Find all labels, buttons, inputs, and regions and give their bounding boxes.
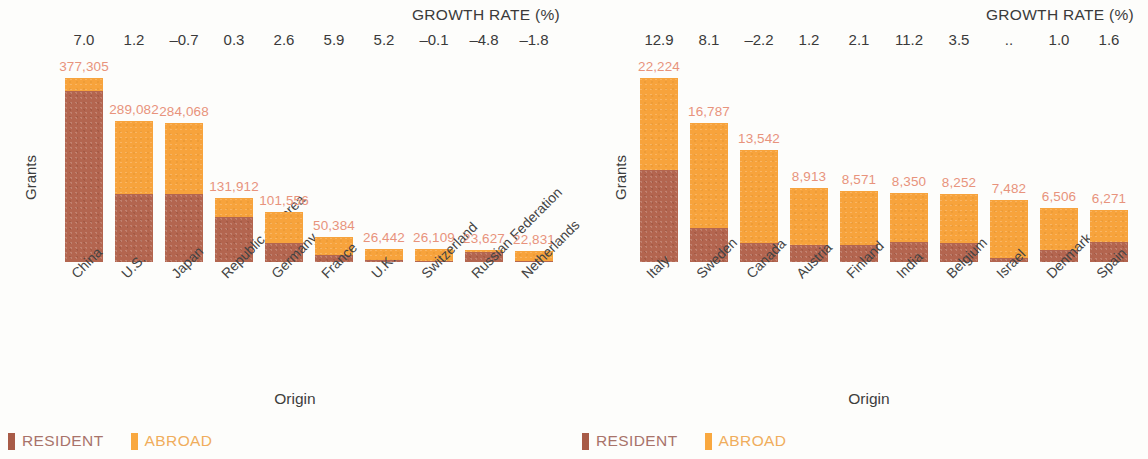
- bar-segment-resident: [640, 170, 678, 262]
- bar-value-label: 377,305: [54, 59, 114, 74]
- x-axis-title-right: Origin: [769, 390, 969, 408]
- chart-panel-top-origins: GROWTH RATE (%) 7.01.2–0.70.32.65.95.2–0…: [0, 0, 574, 459]
- bar-segment-abroad: [215, 198, 253, 217]
- bar-value-label: 6,271: [1079, 191, 1139, 206]
- legend-right: RESIDENT ABROAD: [582, 432, 786, 450]
- bar-segment-abroad: [265, 212, 303, 243]
- bar-segment-abroad: [740, 150, 778, 243]
- bar-value-label: 101,556: [254, 193, 314, 208]
- legend-label-abroad: ABROAD: [719, 432, 787, 450]
- bar-segment-abroad: [640, 78, 678, 170]
- bar-value-label: 13,542: [729, 131, 789, 146]
- bar-segment-abroad: [1090, 210, 1128, 242]
- legend-item-resident[interactable]: RESIDENT: [8, 432, 104, 450]
- legend-left: RESIDENT ABROAD: [8, 432, 212, 450]
- bar-value-label: 131,912: [204, 179, 264, 194]
- legend-swatch-abroad-icon: [705, 433, 712, 450]
- bar-japan[interactable]: [165, 123, 203, 262]
- bar-segment-abroad: [890, 193, 928, 242]
- bar-segment-abroad: [940, 194, 978, 243]
- legend-label-abroad: ABROAD: [145, 432, 213, 450]
- legend-item-abroad[interactable]: ABROAD: [131, 432, 213, 450]
- legend-swatch-resident-icon: [582, 433, 589, 450]
- bar-india[interactable]: [890, 193, 928, 262]
- bar-segment-abroad: [115, 121, 153, 194]
- bar-segment-abroad: [790, 188, 828, 245]
- bar-value-label: 284,068: [154, 104, 214, 119]
- bar-segment-abroad: [65, 78, 103, 91]
- legend-label-resident: RESIDENT: [22, 432, 104, 450]
- chart-panel-next-origins: GROWTH RATE (%) 12.98.1–2.21.22.111.23.5…: [574, 0, 1148, 459]
- bar-value-label: 22,224: [629, 59, 689, 74]
- bar-value-label: 16,787: [679, 104, 739, 119]
- legend-swatch-resident-icon: [8, 433, 15, 450]
- legend-item-resident[interactable]: RESIDENT: [582, 432, 678, 450]
- legend-label-resident: RESIDENT: [596, 432, 678, 450]
- bar-segment-resident: [115, 194, 153, 262]
- bar-italy[interactable]: [640, 78, 678, 262]
- legend-item-abroad[interactable]: ABROAD: [705, 432, 787, 450]
- bar-china[interactable]: [65, 78, 103, 262]
- x-axis-title-left: Origin: [195, 390, 395, 408]
- bar-segment-resident: [65, 91, 103, 262]
- bar-u-s-[interactable]: [115, 121, 153, 262]
- plot-area-left: 377,305China289,082U.S.284,068Japan131,9…: [0, 0, 574, 262]
- plot-area-right: 22,224Italy16,787Sweden13,542Canada8,913…: [574, 0, 1148, 262]
- bar-segment-abroad: [690, 123, 728, 228]
- legend-swatch-abroad-icon: [131, 433, 138, 450]
- bar-segment-abroad: [165, 123, 203, 194]
- bar-segment-abroad: [990, 200, 1028, 258]
- bar-segment-abroad: [840, 191, 878, 245]
